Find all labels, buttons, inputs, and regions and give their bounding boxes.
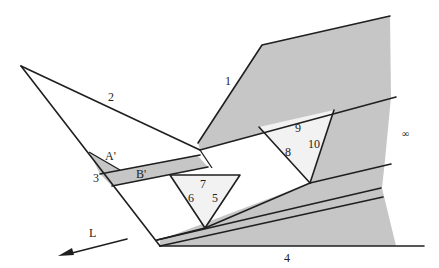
label-8: 8 <box>285 145 291 159</box>
label-6: 6 <box>188 191 194 205</box>
label-3: 3 <box>93 171 99 185</box>
label-l: L <box>89 226 96 240</box>
edge-3-left <box>21 66 160 246</box>
label-a-prime: A' <box>105 149 116 163</box>
arrow-l-head-icon <box>58 248 74 256</box>
label-7: 7 <box>200 177 206 191</box>
label-4: 4 <box>284 251 290 265</box>
label-infinity: ∞ <box>402 128 409 139</box>
label-1: 1 <box>225 74 231 88</box>
label-5: 5 <box>212 191 218 205</box>
edge-2-upper <box>21 66 200 150</box>
label-9: 9 <box>295 121 301 135</box>
label-b-prime: B' <box>136 167 146 181</box>
label-2: 2 <box>108 90 114 104</box>
diagram-canvas: 1 2 3 A' B' 7 6 5 9 8 10 ∞ 4 L <box>0 0 439 268</box>
label-10: 10 <box>308 137 320 151</box>
arrow-l-shaft <box>68 239 127 254</box>
